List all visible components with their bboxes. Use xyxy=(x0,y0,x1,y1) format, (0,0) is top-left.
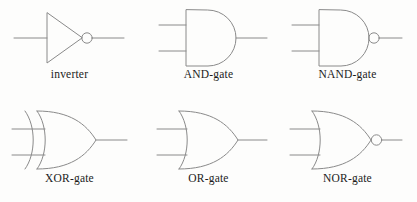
gate-figure-xor-gate: XOR-gate xyxy=(0,104,139,202)
inverter-triangle-body xyxy=(47,13,82,63)
gate-figure-inverter: inverter xyxy=(0,2,139,103)
nor-gate-symbol xyxy=(278,104,417,176)
gate-label-nor-gate: NOR-gate xyxy=(278,172,417,184)
inverter-symbol xyxy=(0,2,139,74)
gate-label-inverter: inverter xyxy=(0,68,139,80)
nand-gate-body xyxy=(319,10,369,66)
or-gate-back-arc xyxy=(179,111,187,169)
or-gate-symbol xyxy=(139,104,278,176)
xor-gate-body xyxy=(37,111,96,169)
gate-figure-nor-gate: NOR-gate xyxy=(278,104,417,202)
and-gate-body xyxy=(186,10,236,66)
nor-gate-back-arc xyxy=(312,111,320,169)
nand-gate-symbol xyxy=(278,2,417,74)
or-gate-body xyxy=(179,111,238,169)
gate-figure-or-gate: OR-gate xyxy=(139,104,278,202)
gate-figure-nand-gate: NAND-gate xyxy=(278,2,417,103)
nor-gate-bubble-icon xyxy=(371,135,381,145)
nand-gate-bubble-icon xyxy=(369,33,379,43)
gate-label-nand-gate: NAND-gate xyxy=(278,68,417,80)
and-gate-symbol xyxy=(139,2,278,74)
logic-gate-symbol-diagram: inverter AND-gate NAND-gate xyxy=(0,0,417,202)
nor-gate-body xyxy=(312,111,371,169)
xor-gate-outer-arc xyxy=(25,111,33,169)
gate-figure-and-gate: AND-gate xyxy=(139,2,278,103)
gate-label-xor-gate: XOR-gate xyxy=(0,172,139,184)
gate-label-or-gate: OR-gate xyxy=(139,172,278,184)
gate-label-and-gate: AND-gate xyxy=(139,68,278,80)
xor-gate-inner-back-arc xyxy=(37,111,45,169)
inverter-bubble-icon xyxy=(82,33,92,43)
xor-gate-symbol xyxy=(0,104,139,176)
